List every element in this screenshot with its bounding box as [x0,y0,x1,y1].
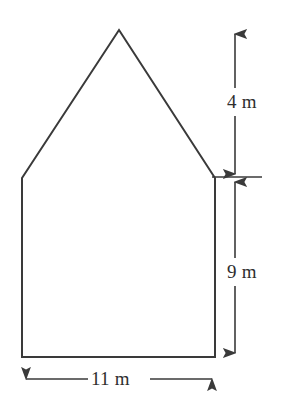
dimension-label-roof-height: 4 m [227,92,257,111]
dimension-label-wall-height: 9 m [227,262,257,281]
figure-canvas [0,0,288,406]
geometry-figure: 4 m 9 m 11 m [0,0,288,406]
dimension-label-base-width: 11 m [91,369,130,388]
house-pentagon-shape [22,30,215,357]
